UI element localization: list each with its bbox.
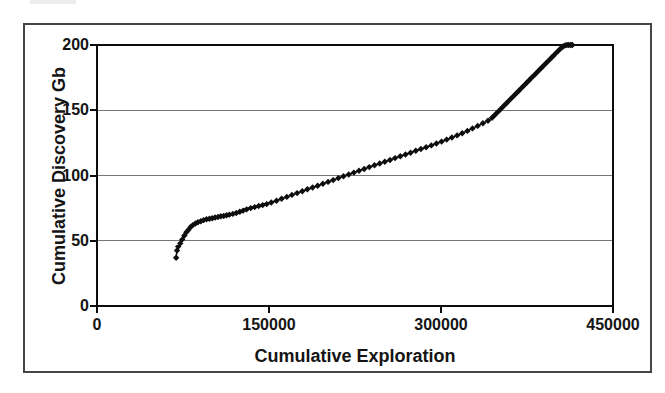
scan-artifact xyxy=(30,0,76,4)
chart-figure: 200 150 100 50 0 0 150000 300000 450000 … xyxy=(23,23,652,373)
y-tick-label-0: 0 xyxy=(25,296,89,316)
y-axis-title: Cumulative Discovery Gb xyxy=(48,56,70,296)
x-tick-label-450000: 450000 xyxy=(571,315,655,335)
x-tick-label-150000: 150000 xyxy=(227,315,311,335)
x-axis-title: Cumulative Exploration xyxy=(235,345,475,367)
y-tick-label-200: 200 xyxy=(25,35,89,55)
x-tick-label-0: 0 xyxy=(55,315,139,335)
x-tick-label-300000: 300000 xyxy=(399,315,483,335)
